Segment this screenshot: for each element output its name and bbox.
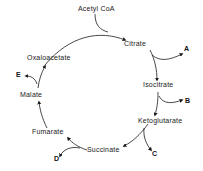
node-fumarate: Fumarate [32,128,64,135]
output-a: A [184,45,189,52]
arrow-output-b [159,96,182,103]
output-c: C [152,150,157,157]
node-citrate: Citrate [124,40,146,47]
arrow-malate-oxaloacetate [38,66,45,88]
arrow-output-c [144,128,151,150]
input-acetyl-coa: Acetyl CoA [78,5,115,12]
arrow-isocitrate-ketoglutarate [155,92,158,115]
node-oxaloacetate: Oxaloacetate [27,54,71,61]
arrow-output-e [26,76,37,84]
node-succinate: Succinate [87,146,120,153]
node-isocitrate: Isocitrate [143,81,173,88]
output-b: B [185,97,190,104]
node-ketoglutarate: Ketoglutarate [138,117,182,124]
output-e: E [16,71,21,78]
arrow-acetylcoa-input [95,14,108,32]
arrow-output-a [152,54,182,59]
output-d: D [54,155,59,162]
arrow-fumarate-malate [39,102,47,128]
arrow-output-d [60,147,80,156]
arrow-citrate-isocitrate [150,50,157,80]
node-malate: Malate [20,91,42,98]
